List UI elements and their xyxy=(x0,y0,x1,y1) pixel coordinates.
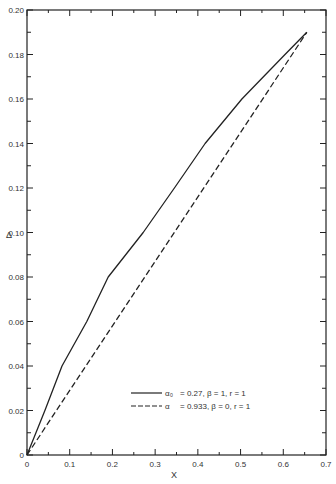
plot-frame xyxy=(27,10,326,455)
x-tick-label: 0.5 xyxy=(235,460,247,469)
x-tick-label: 0.6 xyxy=(278,460,290,469)
x-tick-label: 0 xyxy=(25,460,30,469)
y-axis-title: Δ xyxy=(6,230,12,240)
y-tick-label: 0.20 xyxy=(8,6,24,15)
y-tick-label: 0.06 xyxy=(8,318,24,327)
plot-axes xyxy=(27,10,326,455)
y-tick-label: 0.16 xyxy=(8,95,24,104)
legend: α₀ = 0.27, β = 1, r = 1 α = 0.933, β = 0… xyxy=(131,389,251,411)
x-tick-label: 0.1 xyxy=(64,460,76,469)
y-tick-label: 0.08 xyxy=(8,273,24,282)
legend-solid-symbol: α₀ xyxy=(165,389,173,398)
y-tick-label: 0 xyxy=(20,451,25,460)
y-tick-label: 0.04 xyxy=(8,362,24,371)
axis-ticks: 00.10.20.30.40.50.60.700.020.040.060.080… xyxy=(8,6,332,469)
y-tick-label: 0.18 xyxy=(8,51,24,60)
x-tick-label: 0.4 xyxy=(192,460,204,469)
x-tick-label: 0.2 xyxy=(107,460,119,469)
x-tick-label: 0.3 xyxy=(150,460,162,469)
chart: 00.10.20.30.40.50.60.700.020.040.060.080… xyxy=(0,0,336,484)
legend-solid-text: = 0.27, β = 1, r = 1 xyxy=(180,389,246,398)
x-axis-title: X xyxy=(171,470,177,480)
legend-dashed-text: = 0.933, β = 0, r = 1 xyxy=(180,402,251,411)
legend-dashed-symbol: α xyxy=(165,402,170,411)
y-tick-label: 0.12 xyxy=(8,184,24,193)
y-tick-label: 0.14 xyxy=(8,140,24,149)
x-tick-label: 0.7 xyxy=(320,460,332,469)
y-tick-label: 0.02 xyxy=(8,407,24,416)
